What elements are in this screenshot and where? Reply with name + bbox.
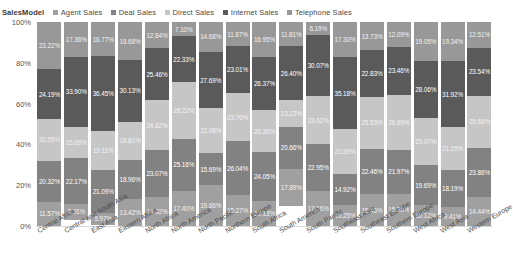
bar-segment[interactable]: 23.86% — [467, 148, 491, 197]
bar-stack[interactable]: 19.34%31.92%21.15%18.19%9.41% — [439, 22, 466, 226]
bar-segment[interactable]: 22.08% — [199, 108, 223, 153]
bar-segment[interactable]: 26.99% — [387, 95, 411, 150]
bar-stack[interactable]: 17.36%33.90%15.66%22.17%7.91% — [63, 22, 90, 226]
bar-segment[interactable]: 20.32% — [37, 161, 61, 202]
bar-segment[interactable]: 30.07% — [306, 35, 330, 96]
bar-segment[interactable]: 22.26% — [333, 129, 357, 174]
bar-segment[interactable]: 22.46% — [360, 149, 384, 195]
bar-stack[interactable]: 12.84%25.46%24.62%23.07%14.02% — [144, 22, 171, 226]
bar-segment[interactable]: 21.15% — [441, 127, 465, 170]
bar-stack[interactable]: 19.05%28.06%23.07%19.69%10.12% — [412, 22, 439, 226]
bar-segment[interactable]: 23.62% — [306, 96, 330, 144]
bar-segment[interactable]: 23.22% — [37, 22, 61, 69]
legend-item-agent-sales[interactable]: Agent Sales — [53, 8, 102, 17]
bar-segment[interactable]: 27.69% — [199, 52, 223, 108]
bar-segment[interactable]: 24.05% — [252, 152, 276, 201]
bar-segment[interactable]: 23.46% — [387, 47, 411, 95]
bar-segment-value: 26.40% — [281, 70, 302, 77]
bar-segment[interactable]: 6.19% — [306, 22, 330, 35]
bar-stack[interactable]: 13.73%22.83%25.53%22.46%15.45% — [359, 22, 386, 226]
bar-segment[interactable]: 26.04% — [226, 141, 250, 194]
bar-segment[interactable]: 12.09% — [387, 22, 411, 47]
bar-segment[interactable]: 25.53% — [360, 97, 384, 149]
bar-stack[interactable]: 11.81%26.40%13.23%20.66%17.89% — [278, 22, 305, 226]
bar-stack[interactable]: 6.19%30.07%23.62%22.95%17.16% — [305, 22, 332, 226]
bar-stack[interactable]: 12.51%23.54%25.66%23.86%14.44% — [466, 22, 493, 226]
bar-segment[interactable]: 11.87% — [226, 22, 250, 46]
bar-segment[interactable]: 19.34% — [441, 22, 465, 61]
bar-segment[interactable]: 16.95% — [252, 22, 276, 57]
bar-segment[interactable]: 15.69% — [199, 153, 223, 185]
bar-segment[interactable]: 33.90% — [64, 57, 88, 126]
bar-segment[interactable]: 17.89% — [279, 169, 303, 205]
bar-segment[interactable]: 20.55% — [37, 119, 61, 161]
bar-segment[interactable]: 17.36% — [64, 22, 88, 57]
bar-segment[interactable]: 13.73% — [360, 22, 384, 50]
bar-segment[interactable]: 20.66% — [279, 127, 303, 169]
bar-segment[interactable]: 26.40% — [279, 46, 303, 100]
bar-segment[interactable]: 23.70% — [226, 93, 250, 141]
bar-segment[interactable]: 12.84% — [145, 22, 169, 48]
bar-segment[interactable]: 14.68% — [199, 22, 223, 52]
bar-segment[interactable]: 22.33% — [172, 36, 196, 81]
bar-segment[interactable]: 18.19% — [441, 170, 465, 207]
bar-segment[interactable]: 13.23% — [279, 100, 303, 127]
bar-segment[interactable]: 28.06% — [414, 61, 438, 118]
x-axis-tick: Central Africa — [36, 226, 63, 277]
bar-stack[interactable]: 16.77%36.45%19.11%21.09%5.97% — [90, 22, 117, 226]
bar-segment[interactable]: 20.36% — [252, 110, 276, 152]
bar-segment[interactable]: 7.10% — [172, 22, 196, 36]
x-axis-tick: Western Europe — [466, 226, 493, 277]
legend-item-label: Deal Sales — [119, 8, 156, 17]
bar-segment[interactable]: 31.92% — [441, 61, 465, 126]
bar-segment[interactable]: 21.97% — [387, 150, 411, 195]
legend-item-internet-sales[interactable]: Internet Sales — [223, 8, 278, 17]
legend-item-telephone-sales[interactable]: Telephone Sales — [287, 8, 351, 17]
bar-segment[interactable]: 16.77% — [91, 22, 115, 56]
bar-segment[interactable]: 36.45% — [91, 56, 115, 130]
x-axis-tick: North Pacific — [197, 226, 224, 277]
bar-segment-value: 23.07% — [415, 138, 436, 145]
x-axis-tick: Southern Europe — [385, 226, 412, 277]
bar-segment[interactable]: 18.68% — [118, 22, 142, 60]
bar-segment[interactable]: 26.37% — [252, 57, 276, 111]
bar-segment[interactable]: 22.95% — [306, 144, 330, 191]
bar-segment[interactable]: 25.66% — [467, 96, 491, 148]
bar-stack[interactable]: 11.87%23.01%23.70%26.04%15.27% — [224, 22, 251, 226]
bar-stack[interactable]: 14.68%27.69%22.08%15.69%19.86% — [197, 22, 224, 226]
bar-segment[interactable]: 23.54% — [467, 48, 491, 96]
bar-stack[interactable]: 7.10%22.33%28.22%25.16%17.40% — [170, 22, 197, 226]
bar-segment[interactable]: 22.17% — [64, 158, 88, 203]
bar-segment[interactable]: 30.13% — [118, 60, 142, 121]
legend-item-direct-sales[interactable]: Direct Sales — [165, 8, 214, 17]
bar-segment-value: 22.26% — [335, 148, 356, 155]
bar-segment[interactable]: 19.69% — [414, 165, 438, 205]
bar-stack[interactable]: 16.95%26.37%20.36%24.05%12.13% — [251, 22, 278, 226]
bar-segment[interactable]: 23.07% — [414, 118, 438, 165]
bar-segment[interactable]: 19.05% — [414, 22, 438, 61]
bar-segment[interactable]: 11.81% — [279, 22, 303, 46]
bar-segment[interactable]: 19.11% — [91, 131, 115, 170]
legend-item-deal-sales[interactable]: Deal Sales — [111, 8, 156, 17]
bar-segment[interactable]: 25.16% — [172, 139, 196, 190]
bar-segment[interactable]: 17.30% — [333, 22, 357, 57]
bar-stack[interactable]: 12.09%23.46%26.99%21.97%15.30% — [385, 22, 412, 226]
y-axis-tick: 40% — [16, 140, 31, 149]
legend-title: SalesModel — [2, 8, 44, 17]
bar-segment[interactable]: 14.92% — [333, 174, 357, 204]
bar-segment[interactable]: 18.81% — [118, 122, 142, 160]
bar-segment[interactable]: 22.83% — [360, 50, 384, 97]
bar-stack[interactable]: 17.30%35.18%22.26%14.92%10.25% — [332, 22, 359, 226]
bar-segment[interactable]: 15.66% — [64, 127, 88, 159]
bar-segment[interactable]: 12.51% — [467, 22, 491, 48]
y-axis-tick: 80% — [16, 58, 31, 67]
bar-segment[interactable]: 24.62% — [145, 100, 169, 150]
bar-stack[interactable]: 23.22%24.19%20.55%20.32%11.57% — [36, 22, 63, 226]
bar-segment[interactable]: 35.18% — [333, 57, 357, 129]
bar-segment[interactable]: 25.46% — [145, 48, 169, 100]
legend-item-label: Direct Sales — [173, 8, 215, 17]
bar-segment[interactable]: 23.07% — [145, 150, 169, 197]
bar-segment[interactable]: 23.01% — [226, 46, 250, 93]
bar-segment[interactable]: 24.19% — [37, 69, 61, 118]
bar-segment[interactable]: 28.22% — [172, 82, 196, 139]
